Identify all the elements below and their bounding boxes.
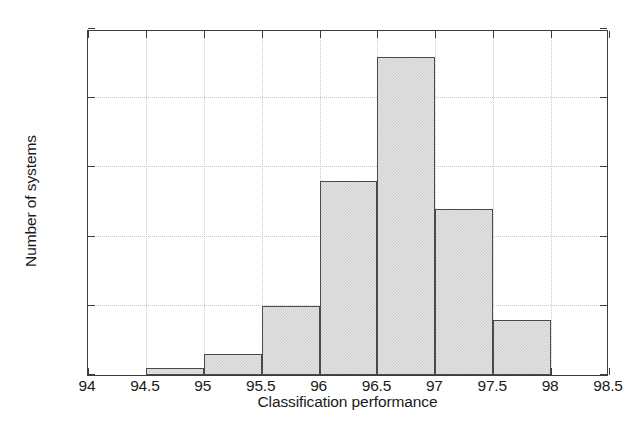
x-axis-title: Classification performance [87, 393, 608, 411]
plot-area [87, 30, 608, 376]
x-axis-tick [377, 31, 378, 38]
x-axis-tick [88, 31, 89, 38]
x-axis-tick [493, 368, 494, 375]
x-axis-tick-label: 98.5 [573, 378, 638, 394]
y-axis-tick [88, 97, 95, 98]
x-axis-tick [609, 31, 610, 38]
y-axis-tick [600, 236, 607, 237]
x-axis-tick [320, 31, 321, 38]
gridline-vertical [204, 31, 205, 375]
y-axis-tick [88, 166, 95, 167]
x-axis-tick [551, 368, 552, 375]
gridline-vertical [377, 31, 378, 375]
y-axis-tick [600, 28, 607, 29]
y-axis-tick [88, 28, 95, 29]
x-axis-tick [146, 368, 147, 375]
y-axis-title: Number of systems [22, 101, 40, 301]
x-axis-tick [377, 368, 378, 375]
x-axis-tick [88, 368, 89, 375]
gridline-vertical [320, 31, 321, 375]
gridline-vertical [493, 31, 494, 375]
gridline-horizontal [88, 166, 607, 167]
y-axis-tick [600, 166, 607, 167]
gridline-vertical [146, 31, 147, 375]
gridline-horizontal [88, 305, 607, 306]
x-axis-tick [146, 31, 147, 38]
histogram-bar [320, 181, 378, 375]
histogram-bar [146, 368, 204, 375]
gridline-horizontal [88, 97, 607, 98]
gridlines [88, 31, 607, 375]
x-axis-tick [204, 368, 205, 375]
y-axis-tick [88, 305, 95, 306]
gridline-vertical [262, 31, 263, 375]
y-axis-tick [600, 97, 607, 98]
x-axis-tick [435, 31, 436, 38]
gridline-vertical [435, 31, 436, 375]
axis-ticks [88, 31, 607, 375]
y-axis-tick [88, 374, 95, 375]
gridline-vertical [551, 31, 552, 375]
x-axis-tick [262, 31, 263, 38]
histogram-bar [493, 320, 551, 375]
histogram-bar [262, 306, 320, 375]
x-axis-tick [262, 368, 263, 375]
x-axis-tick [493, 31, 494, 38]
x-axis-tick [609, 368, 610, 375]
histogram-bar [435, 209, 493, 375]
histogram-bar [377, 57, 435, 375]
x-axis-tick [320, 368, 321, 375]
histogram-bar [204, 354, 262, 375]
x-axis-tick [204, 31, 205, 38]
y-axis-tick [600, 305, 607, 306]
x-axis-tick [551, 31, 552, 38]
gridline-horizontal [88, 236, 607, 237]
x-axis-tick [435, 368, 436, 375]
y-axis-tick [600, 374, 607, 375]
histogram-figure: Number of systems Classification perform… [0, 0, 638, 423]
y-axis-tick [88, 236, 95, 237]
bars-layer [88, 31, 607, 375]
